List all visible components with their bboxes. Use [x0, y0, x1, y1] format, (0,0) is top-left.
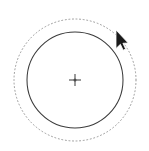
center-origin-handle[interactable]: [69, 74, 82, 87]
cursor-pointer-hotspot[interactable]: [112, 29, 128, 51]
drawing-canvas[interactable]: [0, 0, 149, 151]
